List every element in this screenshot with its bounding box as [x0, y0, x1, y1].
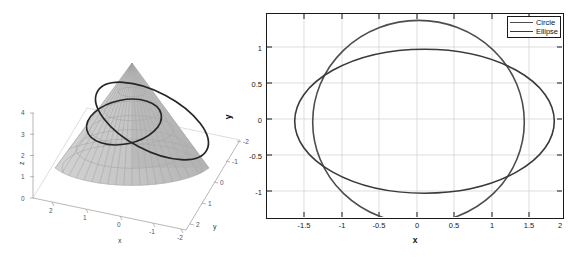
z-axis-ticks-3d [30, 113, 34, 198]
tick-x-4: 0.5 [449, 221, 459, 230]
axis-title-x: x [413, 235, 418, 245]
axis-title-y: y [223, 115, 233, 120]
tick-x-0: -1.5 [298, 221, 311, 230]
plot-area: Circle Ellipse [266, 13, 564, 219]
legend[interactable]: Circle Ellipse [507, 16, 561, 38]
tick-x-5: 1 [490, 221, 494, 230]
tick-x-2: -0.5 [373, 221, 386, 230]
tick-y3d-3: -1 [232, 158, 238, 165]
figure-canvas: 0 1 2 3 4 z 2 1 0 -1 -2 x 2 1 0 -1 -2 y [0, 0, 575, 264]
tick-x3d-2: 0 [117, 221, 121, 228]
tick-y-1: -0.5 [244, 152, 262, 161]
legend-label-circle: Circle [536, 18, 555, 27]
axis-title-z-3d: z [18, 162, 25, 166]
legend-entry-ellipse[interactable]: Ellipse [509, 27, 558, 36]
axis-title-x-3d: x [118, 237, 122, 244]
tick-z-4: 4 [21, 109, 25, 116]
series-ellipse [295, 49, 555, 193]
axis-title-y-3d: y [213, 223, 217, 230]
tick-x-3: 0 [415, 221, 419, 230]
cone-surface-3d-svg [0, 0, 272, 264]
tick-x-7: 2 [558, 221, 562, 230]
tick-z-2: 2 [21, 152, 25, 159]
tick-y-3: 0.5 [244, 80, 262, 89]
tick-y3d-0: 2 [196, 221, 200, 228]
legend-entry-circle[interactable]: Circle [509, 18, 558, 27]
tick-y3d-1: 1 [208, 200, 212, 207]
x-axis-ticks-3d [52, 202, 183, 233]
tick-z-0: 0 [21, 195, 25, 202]
tick-y3d-2: 0 [220, 179, 224, 186]
legend-swatch-ellipse [510, 31, 533, 32]
tick-x3d-4: -2 [177, 234, 183, 241]
tick-x3d-1: 1 [83, 214, 87, 221]
tick-x3d-0: 2 [49, 207, 53, 214]
grid-horizontal [267, 47, 562, 191]
tick-y-4: 1 [244, 44, 262, 53]
legend-swatch-circle [510, 22, 533, 23]
tick-y-2: 0 [244, 116, 262, 125]
tick-x3d-3: -1 [149, 228, 155, 235]
tick-x-1: -1 [339, 221, 346, 230]
circle-ellipse-2d-panel: Circle Ellipse -1.5 -1 -0.5 0 0.5 1 1.5 … [266, 13, 564, 219]
tick-z-1: 1 [21, 173, 25, 180]
tick-marks-2d [267, 14, 562, 217]
tick-z-3: 3 [21, 131, 25, 138]
legend-label-ellipse: Ellipse [536, 27, 558, 36]
tick-y-0: -1 [244, 188, 262, 197]
plot-svg [267, 14, 562, 217]
tick-x-6: 1.5 [524, 221, 534, 230]
tick-y3d-4: -2 [243, 138, 249, 145]
cone-surface-3d-panel: 0 1 2 3 4 z 2 1 0 -1 -2 x 2 1 0 -1 -2 y [0, 0, 272, 264]
